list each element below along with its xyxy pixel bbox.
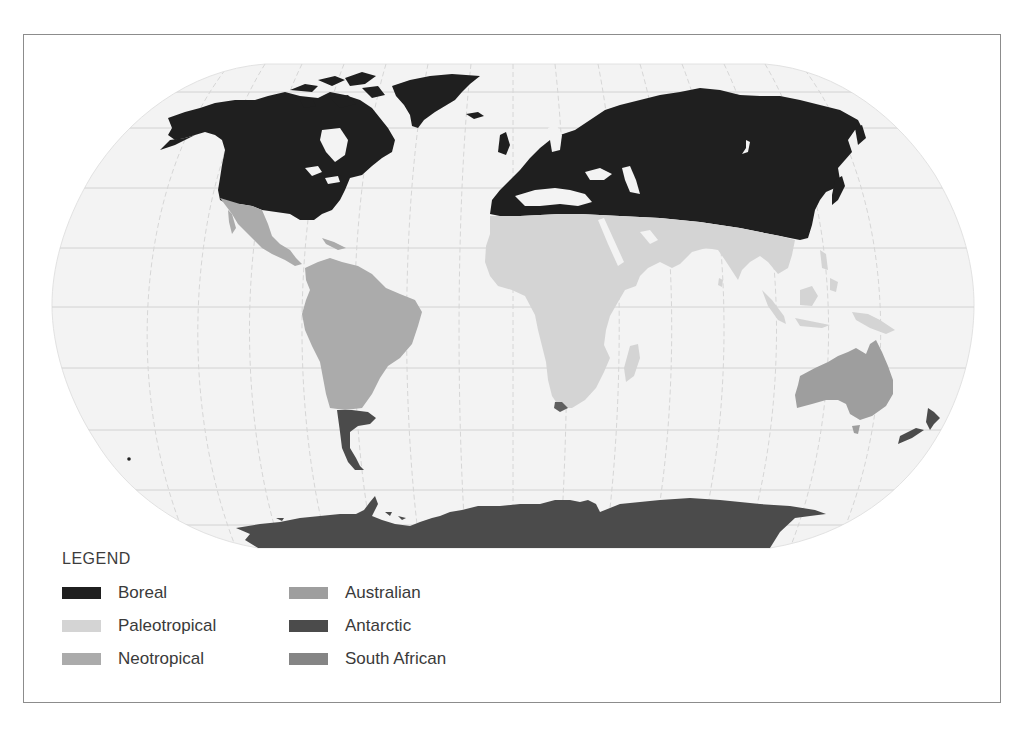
legend-item-paleotropical: Paleotropical bbox=[62, 615, 216, 637]
pacific-island-dot bbox=[127, 457, 131, 461]
legend-item-neotropical: Neotropical bbox=[62, 648, 204, 670]
legend-item-australian: Australian bbox=[289, 582, 421, 604]
legend-swatch-neotropical bbox=[62, 653, 101, 665]
legend-swatch-antarctic bbox=[289, 620, 328, 632]
legend-label: Paleotropical bbox=[118, 616, 216, 636]
legend-label: Boreal bbox=[118, 583, 167, 603]
legend-item-boreal: Boreal bbox=[62, 582, 167, 604]
legend: LEGEND Boreal Paleotropical Neotropical … bbox=[62, 549, 522, 680]
legend-item-antarctic: Antarctic bbox=[289, 615, 411, 637]
legend-label: Neotropical bbox=[118, 649, 204, 669]
legend-title: LEGEND bbox=[62, 549, 522, 571]
legend-label: Australian bbox=[345, 583, 421, 603]
legend-items: Boreal Paleotropical Neotropical Austral… bbox=[62, 580, 522, 680]
legend-label: South African bbox=[345, 649, 446, 669]
legend-swatch-boreal bbox=[62, 587, 101, 599]
legend-swatch-australian bbox=[289, 587, 328, 599]
legend-item-south-african: South African bbox=[289, 648, 446, 670]
legend-swatch-paleotropical bbox=[62, 620, 101, 632]
legend-swatch-south-african bbox=[289, 653, 328, 665]
legend-label: Antarctic bbox=[345, 616, 411, 636]
